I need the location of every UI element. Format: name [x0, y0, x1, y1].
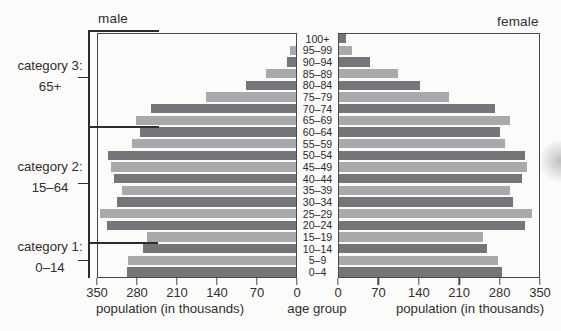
age-group-label: 85–89: [303, 69, 332, 79]
axis-tick: [458, 278, 459, 285]
male-axis-caption: population (in thousands): [96, 301, 244, 316]
age-group-label: 30–34: [303, 197, 332, 207]
age-group-row: 20–24: [297, 220, 338, 232]
age-group-row: 35–39: [297, 185, 338, 197]
male-bar-15–19: [147, 232, 297, 241]
axis-tick: [378, 278, 379, 285]
male-bar-50–54: [108, 151, 297, 160]
chart-row: [338, 254, 540, 266]
age-group-label: 90–94: [303, 57, 332, 67]
male-bar-75–79: [206, 92, 297, 101]
chart-row: [338, 161, 540, 173]
age-group-axis-caption: age group: [287, 301, 346, 316]
population-pyramid-chart: male female 350280210140700 070140210280…: [0, 0, 561, 331]
female-bar-25–29: [338, 209, 532, 218]
chart-row: [338, 185, 540, 197]
axis-tick: [539, 278, 540, 285]
female-bar-15–19: [338, 232, 483, 241]
axis-tick-label: 0: [293, 285, 300, 300]
male-bar-90–94: [287, 57, 297, 66]
age-group-row: 25–29: [297, 208, 338, 220]
age-group-row: 45–49: [297, 161, 338, 173]
male-bar-25–29: [100, 209, 297, 218]
female-side-title: female: [497, 14, 539, 29]
age-group-row: 85–89: [297, 68, 338, 80]
female-bar-5–9: [338, 256, 498, 265]
chart-row: [338, 208, 540, 220]
axis-tick-label: 210: [448, 285, 470, 300]
female-bar-80–84: [338, 81, 420, 90]
chart-row: [338, 91, 540, 103]
age-group-label: 15–19: [303, 232, 332, 242]
female-bar-65–69: [338, 116, 510, 125]
age-group-row: 55–59: [297, 138, 338, 150]
chart-row: [338, 103, 540, 115]
female-bar-70–74: [338, 104, 495, 113]
axis-tick: [296, 278, 297, 285]
age-group-label: 60–64: [303, 127, 332, 137]
male-bar-80–84: [246, 81, 297, 90]
chart-row: [97, 161, 297, 173]
chart-row: [338, 266, 540, 278]
chart-row: [338, 243, 540, 255]
female-bar-75–79: [338, 92, 449, 101]
male-side-title: male: [98, 11, 128, 26]
chart-row: [97, 196, 297, 208]
axis-tick: [176, 278, 177, 285]
axis-tick: [216, 278, 217, 285]
chart-row: [97, 103, 297, 115]
chart-row: [338, 126, 540, 138]
chart-row: [97, 173, 297, 185]
axis-tick-label: 350: [86, 285, 108, 300]
age-group-label: 75–79: [303, 92, 332, 102]
category-1-range: 0–14: [3, 257, 97, 278]
age-group-label: 55–59: [303, 139, 332, 149]
age-group-label: 95–99: [303, 45, 332, 55]
age-group-row: 75–79: [297, 91, 338, 103]
age-group-label: 80–84: [303, 80, 332, 90]
chart-row: [97, 185, 297, 197]
male-bar-20–24: [107, 221, 297, 230]
age-group-row: 100+: [297, 33, 338, 45]
chart-row: [338, 80, 540, 92]
male-bar-70–74: [151, 104, 297, 113]
male-axis-tick-labels: 350280210140700: [97, 285, 297, 301]
female-bar-30–34: [338, 197, 513, 206]
female-axis-caption: population (in thousands): [396, 301, 544, 316]
male-bar-95–99: [290, 46, 297, 55]
axis-tick: [499, 278, 500, 285]
male-bar-60–64: [140, 127, 297, 136]
category-1-label: category 1: 0–14: [3, 236, 97, 278]
chart-row: [97, 91, 297, 103]
age-group-label: 70–74: [303, 104, 332, 114]
age-group-label: 50–54: [303, 150, 332, 160]
axis-tick-label: 70: [371, 285, 385, 300]
age-group-row: 60–64: [297, 126, 338, 138]
female-bars: [338, 33, 540, 278]
age-group-label: 100+: [306, 34, 330, 44]
age-group-label: 20–24: [303, 220, 332, 230]
axis-tick: [337, 278, 338, 285]
male-bar-5–9: [128, 256, 297, 265]
age-group-row: 50–54: [297, 150, 338, 162]
chart-row: [97, 138, 297, 150]
axis-tick-label: 210: [166, 285, 188, 300]
axis-tick-label: 280: [126, 285, 148, 300]
female-bar-0–4: [338, 267, 502, 276]
male-bar-65–69: [136, 116, 297, 125]
female-bar-50–54: [338, 151, 525, 160]
chart-row: [97, 254, 297, 266]
age-group-row: 65–69: [297, 115, 338, 127]
axis-tick-label: 0: [334, 285, 341, 300]
female-axis-tick-labels: 070140210280350: [338, 285, 540, 301]
age-group-row: 70–74: [297, 103, 338, 115]
chart-row: [97, 243, 297, 255]
chart-row: [97, 220, 297, 232]
age-group-label: 65–69: [303, 115, 332, 125]
age-group-label: 35–39: [303, 185, 332, 195]
female-bar-85–89: [338, 69, 398, 78]
female-bar-35–39: [338, 186, 510, 195]
male-bar-0–4: [127, 267, 297, 276]
male-bar-85–89: [266, 69, 297, 78]
chart-row: [97, 266, 297, 278]
